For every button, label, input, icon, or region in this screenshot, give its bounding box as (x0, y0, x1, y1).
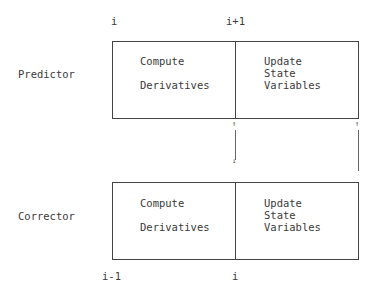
predictor-state-label: State (264, 67, 296, 79)
tick-label-i-plus-1: i+1 (226, 16, 245, 27)
predictor-label: Predictor (18, 69, 75, 80)
predictor-derivatives-label: Derivatives (140, 79, 210, 91)
arrow-down-icon: ↓ (232, 158, 236, 165)
corrector-state-label: State (264, 209, 296, 221)
predictor-compute-label: Compute (140, 55, 184, 67)
middle-connector-line (235, 130, 236, 160)
corrector-label: Corrector (18, 211, 75, 222)
corrector-compute-label: Compute (140, 197, 184, 209)
tick-label-i-bottom: i (232, 271, 238, 282)
right-arrow-up-icon: ↑ (355, 121, 359, 128)
tick-label-i-top: i (111, 16, 117, 27)
predictor-update-label: Update (264, 55, 302, 67)
right-connector-line (358, 130, 359, 171)
predictor-variables-label: Variables (264, 79, 321, 91)
arrow-up-icon: ↑ (232, 121, 236, 128)
corrector-update-label: Update (264, 197, 302, 209)
predictor-divider (235, 41, 236, 119)
corrector-derivatives-label: Derivatives (140, 221, 210, 233)
corrector-divider (235, 182, 236, 260)
corrector-variables-label: Variables (264, 221, 321, 233)
tick-label-i-minus-1: i-1 (102, 271, 121, 282)
